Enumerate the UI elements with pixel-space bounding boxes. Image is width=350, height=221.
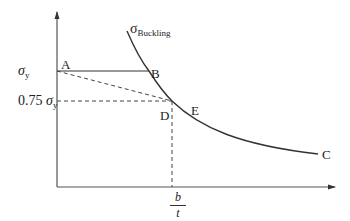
curve-label-buckling: σBuckling (130, 22, 171, 36)
point-label-b: B (151, 67, 160, 80)
point-label-d: D (160, 109, 169, 122)
y-tick-075-sigma-y: 0.75 σy (18, 94, 57, 108)
sigma-symbol: σ (46, 93, 53, 108)
point-label-e: E (191, 104, 199, 117)
coefficient-label: 0.75 (18, 93, 46, 108)
x-tick-b-over-t: b t (170, 191, 186, 219)
diagram-canvas (0, 0, 350, 221)
fraction-numerator: b (175, 190, 181, 204)
sigma-symbol: σ (130, 21, 138, 36)
point-label-c: C (322, 148, 331, 161)
point-label-a: A (61, 58, 70, 71)
buckling-curve (127, 31, 318, 154)
buckling-subscript: Buckling (138, 28, 171, 38)
y-tick-sigma-y: σy (18, 64, 29, 78)
fraction-denominator: t (176, 206, 179, 220)
sigma-symbol: σ (18, 63, 25, 78)
y-subscript: y (25, 70, 30, 80)
y-subscript: y (53, 100, 58, 110)
